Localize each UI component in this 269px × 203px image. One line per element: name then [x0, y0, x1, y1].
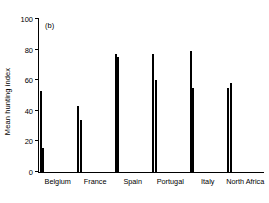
x-axis-category-label: France [84, 177, 107, 186]
bar-group: Italy [189, 19, 226, 172]
bar-group: Portugal [152, 19, 189, 172]
bar-series-container: BelgiumFranceSpainPortugalItalyNorth Afr… [39, 19, 264, 172]
y-axis-tick-label: 20 [25, 137, 33, 146]
bar-group: France [76, 19, 113, 172]
x-axis-category-label: Italy [201, 177, 214, 186]
plot-area: (b) 020406080100 BelgiumFranceSpainPortu… [38, 19, 264, 173]
x-axis-category-label: Belgium [45, 177, 71, 186]
bar-group: Spain [114, 19, 151, 172]
figure-panel-b: Mean hunting index (b) 020406080100 Belg… [0, 0, 269, 203]
bar-open [42, 148, 44, 172]
bar-open [117, 57, 119, 172]
y-axis-tick-label: 40 [25, 106, 33, 115]
x-axis-category-label: North Africa [226, 177, 264, 186]
y-axis-tick-label: 100 [20, 15, 33, 24]
bar-group: Belgium [39, 19, 76, 172]
y-axis-tick-label: 0 [29, 168, 33, 177]
bar-open [230, 83, 232, 172]
x-axis-category-label: Portugal [157, 177, 184, 186]
y-axis-tick-label: 80 [25, 45, 33, 54]
bar-open [155, 80, 157, 172]
bar-open [192, 88, 194, 172]
y-axis-label: Mean hunting index [0, 0, 14, 203]
x-axis-category-label: Spain [123, 177, 142, 186]
bar-open [80, 120, 82, 172]
y-axis-tick-label: 60 [25, 76, 33, 85]
bar-group: North Africa [227, 19, 264, 172]
